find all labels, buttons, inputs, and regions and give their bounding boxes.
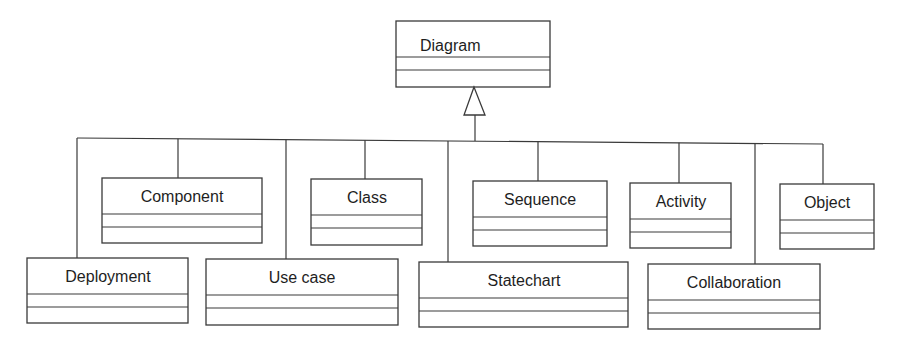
class-box-collaboration: Collaboration [648, 264, 820, 329]
uml-diagram-canvas: DiagramComponentClassSequenceActivityObj… [0, 0, 901, 344]
class-name-label: Class [347, 189, 387, 206]
generalization-bus-line [77, 138, 823, 144]
class-box-sequence: Sequence [473, 181, 607, 246]
class-box-diagram: Diagram [396, 21, 550, 87]
class-name-label: Diagram [420, 37, 480, 54]
class-name-label: Collaboration [687, 274, 781, 291]
class-box-object: Object [780, 184, 874, 249]
generalization-triangle-icon [464, 87, 485, 115]
class-box-use-case: Use case [206, 259, 398, 325]
class-name-label: Statechart [488, 272, 561, 289]
class-box-layer: DiagramComponentClassSequenceActivityObj… [27, 21, 874, 329]
class-box-statechart: Statechart [419, 262, 628, 327]
class-box-deployment: Deployment [27, 258, 188, 323]
class-box-component: Component [102, 178, 262, 243]
class-name-label: Use case [269, 269, 336, 286]
class-box-border [396, 21, 550, 87]
class-name-label: Component [141, 188, 224, 205]
class-box-activity: Activity [630, 183, 731, 248]
class-name-label: Sequence [504, 191, 576, 208]
class-box-class: Class [311, 179, 422, 245]
generalization-arrow-layer [464, 87, 485, 141]
class-name-label: Activity [656, 193, 707, 210]
class-name-label: Object [804, 194, 851, 211]
class-name-label: Deployment [65, 268, 151, 285]
